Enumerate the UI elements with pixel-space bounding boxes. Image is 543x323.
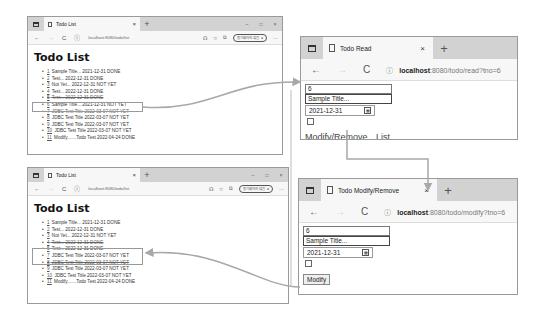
- todo-link[interactable]: 1: [47, 220, 50, 225]
- nav-bar: ← → C ⓘ localhost:8080/todo/list ☊ ☆ ⧉ 동…: [28, 31, 282, 45]
- collections-icon[interactable]: ⧉: [223, 34, 227, 41]
- close-tab-icon[interactable]: ×: [420, 44, 425, 53]
- address-bar[interactable]: localhost:8080/todo/list: [88, 186, 129, 191]
- calendar-icon[interactable]: ▦: [364, 107, 371, 114]
- close-tab-icon[interactable]: ×: [424, 186, 429, 195]
- page-content: 6 Sample Title... 2021-12-31 ▦ Modify Re…: [299, 223, 517, 295]
- toolbar-right: ☊ ☆ ⧉ 동기화하지 않음● ···: [203, 34, 278, 42]
- maximize-button[interactable]: □: [254, 21, 268, 27]
- reload-button[interactable]: C: [62, 35, 66, 41]
- sync-profile-button[interactable]: 동기화하지 않음●: [233, 34, 267, 42]
- forward-button[interactable]: →: [48, 186, 54, 192]
- close-tab-icon[interactable]: ×: [132, 172, 136, 178]
- todo-link[interactable]: 11: [47, 279, 52, 284]
- calendar-icon[interactable]: ▦: [362, 249, 369, 256]
- forward-button[interactable]: →: [335, 206, 345, 217]
- title-field[interactable]: Sample Title...: [305, 94, 392, 104]
- due-date-field[interactable]: 2021-12-31 ▦: [303, 247, 373, 258]
- todo-link[interactable]: 4: [47, 240, 50, 245]
- reload-button[interactable]: C: [363, 64, 370, 75]
- collections-icon[interactable]: ⧉: [229, 185, 233, 192]
- more-menu-button[interactable]: ···: [279, 186, 284, 192]
- list-item: 1 Sample Title... 2021-12-31 DONE: [42, 69, 276, 76]
- new-tab-button[interactable]: +: [433, 37, 455, 59]
- todo-link[interactable]: 10: [47, 273, 52, 278]
- window-close-button[interactable]: ×: [268, 21, 282, 27]
- back-button[interactable]: ←: [311, 64, 321, 75]
- tab-todo-read[interactable]: Todo Read ×: [323, 37, 433, 59]
- finished-checkbox[interactable]: [307, 118, 314, 125]
- reload-button[interactable]: C: [62, 186, 66, 192]
- title-field[interactable]: Sample Title...: [303, 236, 390, 246]
- tab-bar: Todo Read × +: [301, 37, 517, 59]
- modify-remove-link[interactable]: Modify/Remove: [305, 132, 368, 140]
- page-content: 6 Sample Title... 2021-12-31 ▦ Modify/Re…: [301, 81, 517, 140]
- forward-button[interactable]: →: [48, 35, 54, 41]
- avatar-icon: ●: [267, 187, 269, 191]
- todo-link[interactable]: 9: [47, 122, 50, 127]
- new-tab-button[interactable]: +: [140, 17, 154, 31]
- list-item: 4 Test... 2022-12-31 DONE: [42, 89, 276, 96]
- tno-field[interactable]: 6: [303, 226, 390, 236]
- tab-bar: Todo List × + – □ ×: [28, 17, 282, 31]
- tab-todo-list[interactable]: Todo List ×: [44, 168, 140, 182]
- address-bar[interactable]: ⓘlocalhost:8080/todo/read?tno=6: [386, 65, 500, 75]
- minimize-button[interactable]: –: [246, 172, 260, 178]
- todo-link[interactable]: 5: [47, 95, 50, 100]
- modify-button[interactable]: Modify: [303, 274, 330, 285]
- back-button[interactable]: ←: [34, 35, 40, 41]
- address-bar[interactable]: localhost:8080/todo/list: [88, 35, 129, 40]
- tab-actions-button[interactable]: [28, 168, 44, 182]
- new-tab-button[interactable]: +: [437, 179, 459, 201]
- list-item: 9 JDBC Test Title 2022-03-07 NOT YET: [42, 122, 276, 129]
- address-bar[interactable]: ⓘlocalhost:8080/todo/modify?tno=6: [384, 207, 505, 217]
- sync-profile-button[interactable]: 동기화하지 않음●: [239, 185, 273, 193]
- todo-modify-window: Todo Modify/Remove × + ← → C ⓘlocalhost:…: [298, 178, 518, 295]
- tab-actions-button[interactable]: [301, 37, 323, 59]
- todo-link[interactable]: 2: [47, 227, 50, 232]
- read-aloud-icon[interactable]: ☊: [209, 186, 213, 192]
- info-icon: ⓘ: [74, 33, 80, 42]
- window-close-button[interactable]: ×: [274, 172, 288, 178]
- list-item: 3 Not Yet... 2022-12-31 NOT YET: [42, 233, 282, 240]
- tab-todo-modify[interactable]: Todo Modify/Remove ×: [321, 179, 437, 201]
- todo-link[interactable]: 4: [47, 89, 50, 94]
- todo-link[interactable]: 8: [47, 115, 50, 120]
- finished-checkbox[interactable]: [305, 260, 312, 267]
- tab-actions-icon: [308, 45, 316, 52]
- forward-button[interactable]: →: [337, 64, 347, 75]
- page-title: Todo List: [34, 202, 282, 215]
- window-controls: – □ ×: [240, 17, 282, 31]
- todo-link[interactable]: 1: [47, 69, 50, 74]
- tab-todo-list[interactable]: Todo List ×: [44, 17, 140, 31]
- todo-link[interactable]: 3: [47, 233, 50, 238]
- due-date-field[interactable]: 2021-12-31 ▦: [305, 105, 375, 116]
- page-icon: [327, 186, 333, 194]
- todo-link[interactable]: 9: [47, 266, 50, 271]
- list-link[interactable]: List: [376, 132, 390, 140]
- todo-link[interactable]: 3: [47, 82, 50, 87]
- minimize-button[interactable]: –: [240, 21, 254, 27]
- more-menu-button[interactable]: ···: [273, 35, 278, 41]
- tab-actions-icon: [33, 173, 39, 178]
- tab-actions-icon: [33, 22, 39, 27]
- todo-link[interactable]: 2: [47, 76, 50, 81]
- read-aloud-icon[interactable]: ☊: [203, 35, 207, 41]
- tab-actions-button[interactable]: [299, 179, 321, 201]
- list-item: 9 JDBC Test Title 2022-03-07 NOT YET: [42, 266, 282, 273]
- list-item: 10 JDBC Test Title 2022-03-07 NOT YET: [42, 273, 282, 280]
- back-button[interactable]: ←: [309, 206, 319, 217]
- todo-read-window: Todo Read × + ← → C ⓘlocalhost:8080/todo…: [300, 36, 518, 140]
- list-item: 11 Modify.......Todo Test 2022-04-24 DON…: [42, 135, 276, 142]
- favorite-icon[interactable]: ☆: [219, 186, 223, 192]
- maximize-button[interactable]: □: [260, 172, 274, 178]
- favorite-icon[interactable]: ☆: [213, 35, 217, 41]
- tab-actions-button[interactable]: [28, 17, 44, 31]
- todo-link[interactable]: 10: [47, 128, 52, 133]
- todo-link[interactable]: 11: [47, 135, 52, 140]
- reload-button[interactable]: C: [361, 206, 368, 217]
- close-tab-icon[interactable]: ×: [132, 21, 136, 27]
- tno-field[interactable]: 6: [305, 84, 392, 94]
- back-button[interactable]: ←: [34, 186, 40, 192]
- new-tab-button[interactable]: +: [140, 168, 154, 182]
